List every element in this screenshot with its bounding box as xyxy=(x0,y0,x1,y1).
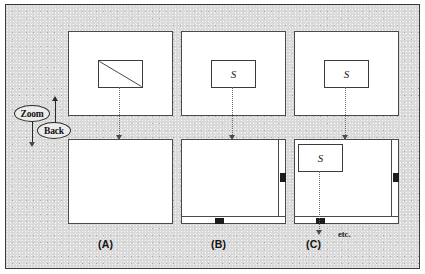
panel-a-bottom[interactable] xyxy=(68,139,173,224)
etc-label: etc. xyxy=(338,229,351,239)
caption-c: (C) xyxy=(306,238,321,250)
panel-a-top-inner-shape[interactable] xyxy=(98,60,143,88)
panel-b-top[interactable]: S xyxy=(181,31,286,116)
panel-c-top[interactable]: S xyxy=(294,31,399,116)
panel-b-top-inner-label: S xyxy=(231,68,237,80)
panel-c-bottom-inner-shape[interactable]: S xyxy=(298,144,343,172)
zoom-callout-label: Zoom xyxy=(21,109,44,119)
zoom-callout[interactable]: Zoom xyxy=(14,105,50,122)
back-callout-label: Back xyxy=(44,126,64,136)
figure-root: Zoom Back xyxy=(0,0,425,274)
back-arrow-line xyxy=(55,101,56,123)
panel-c-top-inner-shape[interactable]: S xyxy=(324,60,369,88)
panel-c-top-inner-label: S xyxy=(344,68,350,80)
caption-b: (B) xyxy=(211,238,226,250)
panel-c-vertical-scrollbar-thumb[interactable] xyxy=(393,173,400,182)
panel-c-bottom[interactable]: S xyxy=(294,139,399,224)
back-callout[interactable]: Back xyxy=(37,122,71,139)
connector-c-continuation xyxy=(319,171,320,233)
panel-c-horizontal-scrollbar-thumb[interactable] xyxy=(316,218,325,225)
diagonal-line-icon xyxy=(99,61,142,87)
zoom-arrow-head-down-icon xyxy=(29,142,35,147)
panel-b-vertical-scrollbar[interactable] xyxy=(278,139,286,224)
connector-c xyxy=(345,87,346,139)
panel-b-horizontal-scrollbar[interactable] xyxy=(181,216,286,224)
panel-b-bottom[interactable] xyxy=(181,139,286,224)
figure-frame: Zoom Back xyxy=(5,4,420,269)
panel-b-horizontal-scrollbar-thumb[interactable] xyxy=(215,218,224,225)
connector-b xyxy=(232,87,233,139)
caption-a: (A) xyxy=(98,238,113,250)
panel-c-vertical-scrollbar[interactable] xyxy=(391,139,399,224)
panel-b-top-inner-shape[interactable]: S xyxy=(211,60,256,88)
panel-c-horizontal-scrollbar[interactable] xyxy=(294,216,399,224)
zoom-arrow-line xyxy=(32,122,33,144)
panel-b-vertical-scrollbar-thumb[interactable] xyxy=(280,173,287,182)
connector-a xyxy=(119,87,120,139)
back-arrow-head-up-icon xyxy=(52,96,58,101)
panel-a-top[interactable] xyxy=(68,31,173,116)
connector-c-continuation-arrow-icon xyxy=(316,230,322,235)
panel-c-bottom-inner-label: S xyxy=(318,152,324,164)
